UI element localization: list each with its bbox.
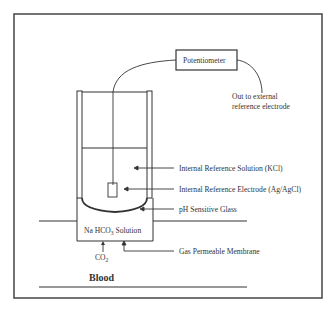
label-pointers (122, 166, 174, 251)
external-ref-wire (237, 60, 262, 93)
label-internal-solution: Internal Reference Solution (KCl) (179, 164, 283, 173)
ph-glass-bulb (82, 198, 147, 212)
co2-label: CO2 (95, 253, 109, 263)
lead-wire (113, 60, 176, 185)
external-ref-label-1: Out to external (232, 92, 278, 101)
outer-frame (14, 14, 322, 298)
label-internal-electrode: Internal Reference Electrode (Ag/AgCl) (179, 185, 302, 194)
internal-electrode (108, 183, 117, 197)
external-ref-label-2: reference electrode (232, 102, 291, 111)
solution-label: Na HCO3 Solution (84, 226, 141, 236)
electrode-tube (77, 91, 153, 241)
label-ph-glass: pH Sensitive Glass (179, 205, 237, 214)
label-membrane: Gas Permeable Membrane (179, 247, 260, 256)
potentiometer: Potentiometer (176, 50, 237, 70)
co2-electrode-diagram: Potentiometer Out to external reference … (0, 0, 334, 321)
blood-label: Blood (89, 272, 114, 283)
potentiometer-label: Potentiometer (183, 56, 226, 65)
